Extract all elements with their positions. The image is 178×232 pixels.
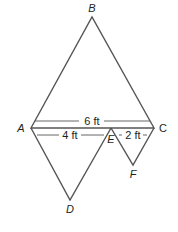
dimension-label-ec: 2 ft xyxy=(125,129,140,141)
triangle-abc xyxy=(31,17,154,128)
dimension-label-ae: 4 ft xyxy=(62,129,77,141)
dimension-ae: 4 ft xyxy=(37,129,104,141)
dimension-label-ac: 6 ft xyxy=(84,115,99,127)
dimension-ac: 6 ft xyxy=(35,115,150,127)
point-label-f: F xyxy=(130,168,138,180)
point-label-a: A xyxy=(16,122,24,134)
point-label-e: E xyxy=(107,133,115,145)
similar-triangles-diagram: 6 ft 4 ft 2 ft B A C E F D xyxy=(0,0,178,232)
point-label-b: B xyxy=(88,2,95,14)
point-label-c: C xyxy=(159,122,167,134)
point-label-d: D xyxy=(66,203,74,215)
dimension-ec: 2 ft xyxy=(119,129,147,141)
